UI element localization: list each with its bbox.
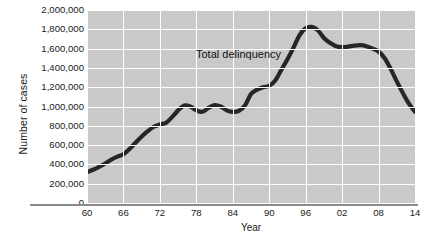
horizontal-gridline <box>87 184 415 185</box>
y-tick-label: 2,000,000 <box>26 5 84 15</box>
horizontal-gridline <box>87 126 415 127</box>
horizontal-gridline <box>87 145 415 146</box>
plot-area <box>87 10 415 203</box>
x-tick-label: 72 <box>145 207 175 219</box>
vertical-gridline <box>123 10 124 203</box>
y-tick-label: 400,000 <box>26 159 84 169</box>
x-tick-label: 90 <box>254 207 284 219</box>
vertical-gridline <box>306 10 307 203</box>
x-tick-label: 66 <box>108 207 138 219</box>
series-annotation-label: Total delinquency <box>196 48 281 60</box>
y-tick-label: 1,800,000 <box>26 24 84 34</box>
x-tick-label: 78 <box>181 207 211 219</box>
x-tick-label: 84 <box>218 207 248 219</box>
x-tick-label: 14 <box>400 207 430 219</box>
horizontal-gridline <box>87 10 415 11</box>
x-axis-title: Year <box>87 222 415 233</box>
vertical-gridline <box>87 10 88 203</box>
y-tick-label: 1,400,000 <box>26 63 84 73</box>
y-tick-label: 800,000 <box>26 121 84 131</box>
vertical-gridline <box>233 10 234 203</box>
vertical-gridline <box>160 10 161 203</box>
chart-figure: Number of cases 2,000,0001,800,0001,600,… <box>0 0 443 242</box>
x-tick-label: 08 <box>364 207 394 219</box>
y-tick-label: 1,200,000 <box>26 82 84 92</box>
x-tick-label: 96 <box>291 207 321 219</box>
y-tick-label: 1,600,000 <box>26 44 84 54</box>
horizontal-gridline <box>87 107 415 108</box>
x-axis-line <box>30 204 418 206</box>
horizontal-gridline <box>87 87 415 88</box>
vertical-gridline <box>379 10 380 203</box>
x-axis-tick-labels: 60667278849096020814 <box>0 207 443 221</box>
y-tick-label: 600,000 <box>26 140 84 150</box>
x-tick-label: 60 <box>72 207 102 219</box>
horizontal-gridline <box>87 164 415 165</box>
vertical-gridline <box>196 10 197 203</box>
y-axis-tick-labels: 2,000,0001,800,0001,600,0001,400,0001,20… <box>26 10 84 203</box>
y-tick-label: 1,000,000 <box>26 102 84 112</box>
x-tick-label: 02 <box>327 207 357 219</box>
y-tick-label: 200,000 <box>26 179 84 189</box>
horizontal-gridline <box>87 68 415 69</box>
vertical-gridline <box>269 10 270 203</box>
horizontal-gridline <box>87 29 415 30</box>
vertical-gridline <box>342 10 343 203</box>
